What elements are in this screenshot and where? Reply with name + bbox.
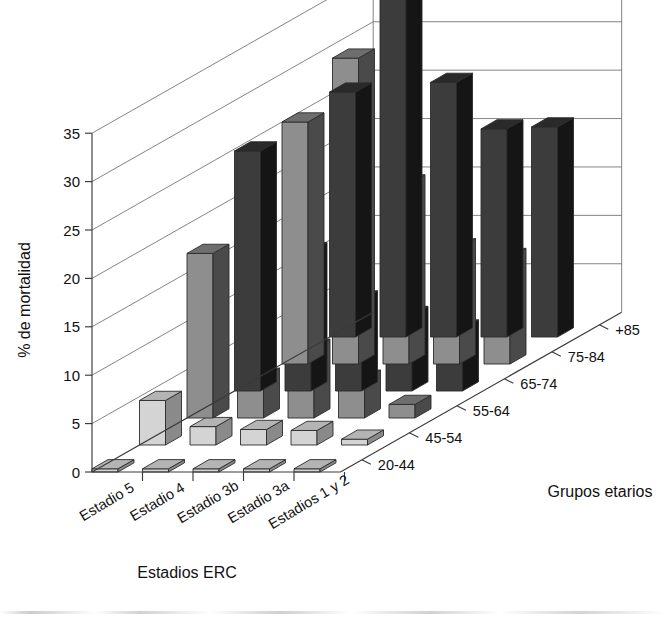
bar-3d: [481, 120, 523, 337]
y-tick-label: 0: [72, 464, 80, 481]
bar-3d: [330, 83, 372, 337]
bar-3d: [532, 118, 574, 337]
bar-3d: [140, 391, 182, 445]
y-tick-label: 15: [63, 318, 80, 335]
bar-3d: [244, 460, 286, 472]
bar-3d: [282, 113, 324, 364]
z-category-label: 45-54: [425, 430, 462, 446]
x-category-label: Estadio 5: [77, 479, 137, 524]
bar-3d: [187, 244, 229, 418]
bar-3d: [389, 395, 431, 418]
z-category-label: 55-64: [473, 403, 510, 419]
scan-artifact: [0, 611, 666, 614]
bar-3d: [291, 421, 333, 445]
bar-3d: [380, 0, 422, 337]
z-category-label: 20-44: [378, 457, 415, 473]
bar-3d: [92, 460, 134, 472]
y-tick-label: 25: [63, 222, 80, 239]
y-axis-title: % de mortalidad: [16, 242, 33, 358]
y-tick-label: 5: [72, 415, 80, 432]
bar-3d: [193, 460, 235, 472]
chart-3d-bar: 05101520253035Estadio 5Estadio 4Estadio …: [0, 0, 666, 619]
z-category-label: 65-74: [520, 376, 557, 392]
y-tick-label: 20: [63, 270, 80, 287]
z-category-label: +85: [615, 322, 640, 338]
y-tick-label: 35: [63, 125, 80, 142]
x-axis-title: Estadios ERC: [137, 564, 237, 581]
bars-layer: [92, 0, 574, 472]
bar-3d: [235, 142, 277, 391]
bar-3d: [342, 430, 384, 445]
bar-3d: [294, 460, 336, 472]
z-axis-title: Grupos etarios: [548, 483, 653, 500]
y-tick-label: 10: [63, 367, 80, 384]
bar-3d: [241, 420, 283, 445]
bar-3d: [431, 73, 473, 337]
bar-3d: [190, 417, 232, 445]
chart-canvas: 05101520253035Estadio 5Estadio 4Estadio …: [0, 0, 666, 619]
z-category-label: 75-84: [568, 349, 605, 365]
y-tick-label: 30: [63, 173, 80, 190]
bar-3d: [143, 460, 185, 472]
